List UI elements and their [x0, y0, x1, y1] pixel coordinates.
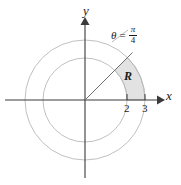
theta-symbol: θ [111, 30, 116, 41]
y-axis-label: y [83, 4, 89, 17]
figure-canvas [0, 0, 181, 185]
equals-sign: = [118, 30, 126, 41]
pi-over-four-fraction: π 4 [129, 25, 138, 46]
theta-angle-label: θ = π 4 [111, 25, 137, 46]
region-label-R: R [124, 70, 132, 82]
fraction-denominator: 4 [129, 36, 138, 45]
x-axis-arrowhead-icon [157, 96, 165, 105]
x-tick-label-2: 2 [124, 103, 130, 114]
x-axis-label: x [166, 89, 172, 102]
polar-region-figure: y x 2 3 R θ = π 4 [0, 0, 181, 185]
x-tick-label-3: 3 [142, 103, 148, 114]
fraction-numerator: π [129, 25, 138, 34]
y-axis-arrowhead-icon [81, 17, 90, 25]
